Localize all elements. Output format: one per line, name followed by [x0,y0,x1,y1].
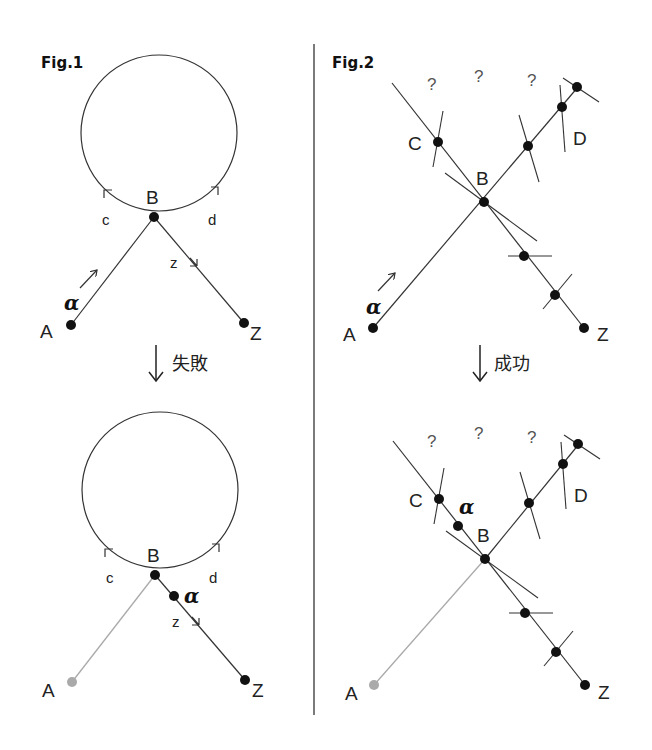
z-arrow-icon [192,617,199,625]
node-ne1 [524,498,534,508]
alpha-arrow-icon [378,273,395,291]
tangent-line [445,173,537,241]
label-z: z [170,254,178,271]
node-a-faded [369,680,379,690]
c-arrow-icon [105,549,113,557]
label-alpha: α [459,495,474,519]
path-a-b [71,217,154,325]
node-ne1 [523,141,533,151]
node-z [580,680,590,690]
node-ne2 [558,459,568,469]
label-a: A [42,680,55,701]
label-z: z [172,613,180,630]
transition-label-failure: 失敗 [172,353,208,374]
node-se1 [519,251,529,261]
question-mark-3: ? [527,428,536,447]
fig1-transition: 失敗 [149,345,208,381]
node-b [480,554,490,564]
question-mark-2: ? [474,424,483,443]
path-a-b-faded [374,559,485,685]
question-mark-2: ? [474,67,483,86]
label-z-node: Z [597,324,609,345]
label-d: d [208,211,216,228]
label-z-node: Z [598,682,610,703]
node-se2 [551,647,561,657]
label-c: C [408,133,422,154]
label-a: A [345,683,358,704]
path-sw-ne [373,87,578,328]
node-c [433,137,443,147]
label-c: C [409,490,423,511]
diagram-canvas: Fig.1 B c d z α A Z 失敗 α [0,0,652,750]
path-a-b-faded [72,575,155,682]
label-z-node: Z [252,680,264,701]
tick-ne2 [560,85,565,152]
fig1-title: Fig.1 [41,54,83,72]
label-a: A [40,321,53,342]
alpha-token [453,521,463,531]
fig2-title: Fig.2 [332,54,374,72]
node-b [149,212,159,222]
label-c: c [102,211,110,228]
z-arrow-icon [190,258,197,266]
node-ne3 [572,82,582,92]
transition-label-success: 成功 [494,353,530,374]
label-b: B [147,545,160,566]
node-c [434,494,444,504]
node-se1 [520,608,530,618]
fig1-after: α B c d z A Z [42,412,264,701]
label-z-node: Z [250,323,262,344]
label-b: B [477,525,490,546]
label-alpha: α [366,295,381,319]
label-d: d [209,569,217,586]
fig2-transition: 成功 [473,345,530,381]
alpha-token [169,591,179,601]
fig1-before: Fig.1 B c d z α A Z [40,54,262,344]
tick-ne2 [561,442,566,509]
label-d: D [574,485,588,506]
node-ne2 [557,102,567,112]
label-alpha: α [184,584,199,608]
label-b: B [146,187,159,208]
node-z [239,318,249,328]
question-mark-3: ? [527,71,536,90]
alpha-arrow-icon [80,270,97,288]
fig2-after: ? ? ? α C B D A Z [345,424,610,704]
node-ne3 [573,439,583,449]
node-a [66,320,76,330]
node-a [368,323,378,333]
path-b-z [155,575,245,680]
node-z [240,675,250,685]
question-mark-1: ? [427,75,436,94]
node-b [479,197,489,207]
node-se2 [550,290,560,300]
label-d: D [573,128,587,149]
path-b-z [154,217,244,323]
fig2-before: Fig.2 ? ? ? C B D α A Z [332,54,609,345]
label-alpha: α [64,291,79,315]
node-z [579,323,589,333]
label-b: B [476,168,489,189]
label-a: A [343,324,356,345]
label-c: c [106,569,114,586]
question-mark-1: ? [427,432,436,451]
node-a-faded [67,677,77,687]
node-b [150,570,160,580]
